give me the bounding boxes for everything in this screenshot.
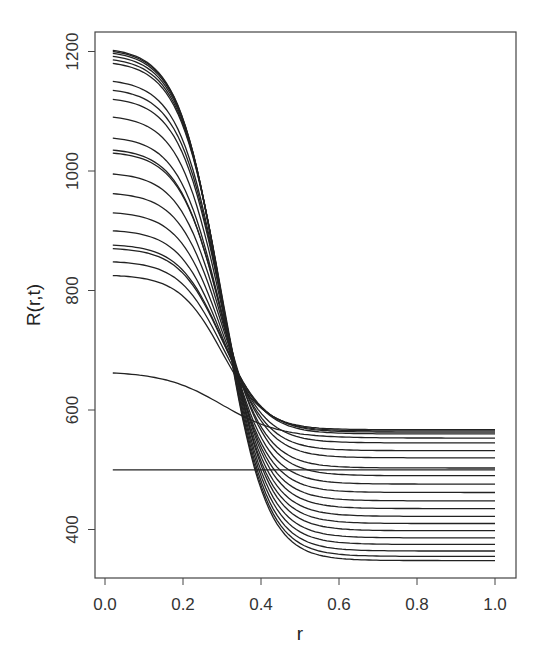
y-tick-label: 600 — [63, 396, 82, 424]
y-tick-label: 1200 — [63, 33, 82, 71]
y-tick-label: 1000 — [63, 152, 82, 190]
x-tick-label: 0.0 — [93, 595, 117, 614]
y-tick-label: 400 — [63, 515, 82, 543]
curve-t21 — [113, 52, 495, 557]
plot-frame — [95, 32, 516, 578]
x-axis-title: r — [297, 623, 304, 644]
curve-t7 — [113, 213, 495, 451]
y-axis: 40060080010001200 — [63, 33, 95, 544]
x-tick-label: 0.4 — [249, 595, 273, 614]
y-tick-label: 800 — [63, 276, 82, 304]
x-tick-label: 1.0 — [483, 595, 507, 614]
curve-t14 — [113, 99, 495, 508]
y-axis-title: R(r,t) — [23, 284, 44, 326]
curve-t8 — [113, 194, 495, 458]
curve-t12 — [113, 138, 495, 492]
x-tick-label: 0.6 — [327, 595, 351, 614]
curve-t2 — [113, 276, 495, 430]
x-axis: 0.00.20.40.60.81.0 — [93, 578, 507, 614]
line-chart: 0.00.20.40.60.81.0 40060080010001200 r R… — [0, 0, 543, 668]
curve-t5 — [113, 245, 495, 434]
x-tick-label: 0.2 — [171, 595, 195, 614]
x-tick-label: 0.8 — [405, 595, 429, 614]
curve-t17 — [113, 63, 495, 530]
curve-t4 — [113, 249, 495, 432]
curve-group — [113, 50, 495, 560]
curve-t9 — [113, 174, 495, 468]
